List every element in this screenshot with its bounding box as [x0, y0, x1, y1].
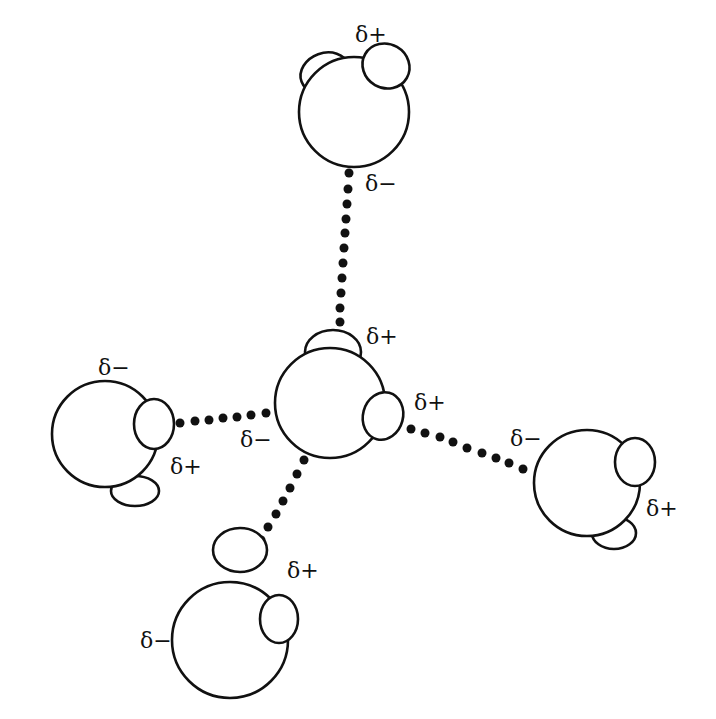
water-hydrogen-bond-diagram: δ+ δ− δ+ δ+ δ− δ− δ+ δ− δ+ δ+ δ− [0, 0, 716, 719]
partial-positive-label: δ+ [170, 454, 202, 479]
water-molecule-center: δ+ δ+ δ− [240, 324, 446, 458]
partial-negative-label: δ− [98, 355, 130, 380]
partial-negative-label: δ− [510, 426, 542, 451]
hydrogen-atom [213, 528, 267, 572]
hydrogen-bond-top [336, 169, 354, 327]
partial-positive-label: δ+ [366, 324, 398, 349]
partial-positive-label: δ+ [355, 22, 387, 47]
water-molecule-bottom: δ+ δ− [140, 528, 319, 698]
water-molecule-top: δ+ δ− [295, 22, 418, 196]
hydrogen-bond-bottom [257, 456, 309, 545]
hydrogen-atom [260, 595, 298, 643]
partial-negative-label: δ− [240, 427, 272, 452]
water-molecule-left: δ− δ+ [52, 355, 202, 506]
water-molecule-right: δ− δ+ [510, 426, 678, 549]
hydrogen-atom [615, 438, 655, 486]
partial-negative-label: δ− [140, 628, 172, 653]
partial-positive-label: δ+ [414, 390, 446, 415]
partial-positive-label: δ+ [287, 558, 319, 583]
hydrogen-atom [134, 399, 174, 449]
partial-positive-label: δ+ [646, 496, 678, 521]
hydrogen-bond-left [176, 409, 271, 428]
partial-negative-label: δ− [365, 171, 397, 196]
